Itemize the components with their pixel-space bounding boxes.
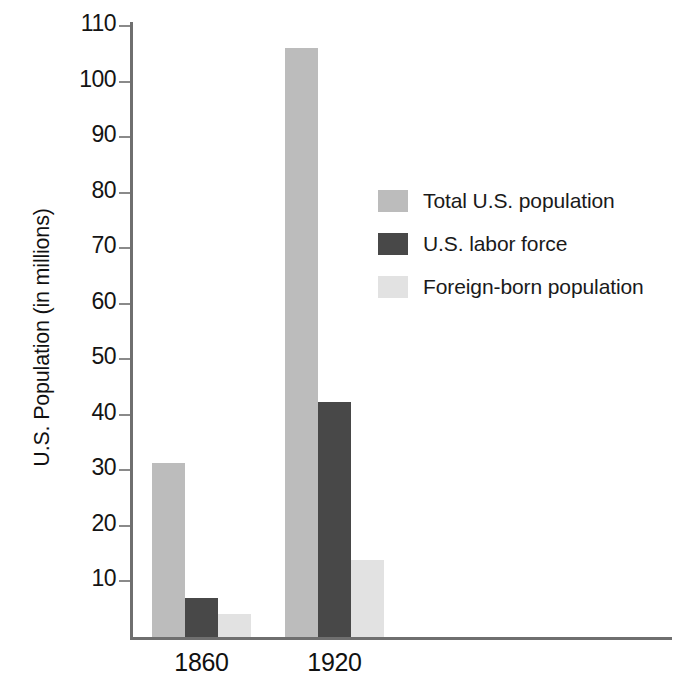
y-axis-tick-mark (119, 81, 130, 83)
y-axis-tick-label: 90 (91, 121, 116, 148)
x-axis-group-label: 1860 (142, 648, 261, 677)
y-axis-tick-label: 70 (91, 232, 116, 259)
bar-total-population (285, 48, 318, 637)
bar-foreign-born (218, 614, 251, 637)
y-axis-tick-label: 80 (91, 177, 116, 204)
y-axis-tick-label: 40 (91, 399, 116, 426)
y-axis-tick-mark (119, 414, 130, 416)
legend-swatch-icon (378, 233, 408, 255)
legend-swatch-icon (378, 276, 408, 298)
legend-label: Total U.S. population (423, 189, 615, 213)
chart-legend: Total U.S. populationU.S. labor forceFor… (378, 183, 644, 312)
plot-area: 110100908070605040302010 18601920 (130, 20, 674, 640)
y-axis-tick-mark (119, 25, 130, 27)
y-axis-tick-mark (119, 136, 130, 138)
bar-chart-figure: U.S. Population (in millions) 1101009080… (0, 0, 674, 689)
y-axis-tick-label: 100 (79, 66, 116, 93)
bar-labor-force (318, 402, 351, 638)
y-axis-tick-label: 20 (91, 510, 116, 537)
y-axis-line (130, 22, 133, 640)
y-axis-tick-mark (119, 247, 130, 249)
x-axis-group-label: 1920 (275, 648, 394, 677)
y-axis-tick-mark (119, 525, 130, 527)
y-axis-tick-mark (119, 303, 130, 305)
bar-foreign-born (351, 560, 384, 637)
legend-item: Total U.S. population (378, 183, 644, 218)
y-axis-tick-mark (119, 469, 130, 471)
y-axis-tick-mark (119, 358, 130, 360)
bar-total-population (152, 463, 185, 637)
bar-labor-force (185, 598, 218, 637)
y-axis-title: U.S. Population (in millions) (30, 128, 55, 548)
y-axis-tick-label: 10 (91, 565, 116, 592)
y-axis-tick-label: 60 (91, 288, 116, 315)
y-axis-tick-mark (119, 192, 130, 194)
legend-item: U.S. labor force (378, 226, 644, 261)
legend-label: Foreign-born population (423, 275, 644, 299)
y-axis-tick-label: 110 (81, 10, 116, 37)
legend-swatch-icon (378, 190, 408, 212)
legend-item: Foreign-born population (378, 269, 644, 304)
y-axis-tick-label: 30 (91, 454, 116, 481)
x-axis-line (130, 637, 672, 640)
legend-label: U.S. labor force (423, 232, 567, 256)
y-axis-tick-mark (119, 580, 130, 582)
y-axis-tick-label: 50 (91, 343, 116, 370)
